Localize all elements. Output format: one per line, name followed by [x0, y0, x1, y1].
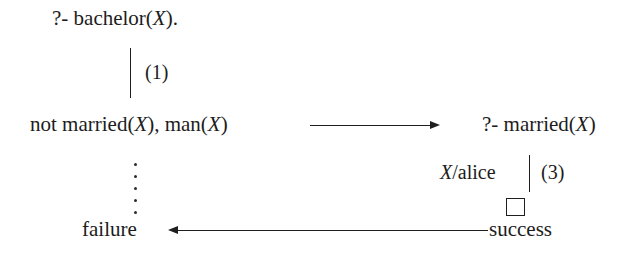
edge-bar-clause-three — [529, 155, 530, 192]
root-goal-suffix: ). — [166, 6, 178, 30]
side-goal-suffix: ) — [589, 112, 596, 136]
root-goal-prefix: ?- bachelor( — [52, 6, 153, 30]
arrow-head-to-failure — [168, 226, 178, 234]
arrow-head-to-side-goal — [430, 121, 440, 129]
side-goal-prefix: ?- married( — [482, 112, 576, 136]
failure-dot-2 — [134, 175, 137, 178]
substitution-variable: X — [440, 161, 452, 183]
empty-clause-box-icon — [506, 198, 525, 216]
substitution-suffix: /alice — [452, 161, 495, 183]
resolvent-prefix: not married( — [30, 112, 134, 136]
node-success: success — [489, 219, 552, 240]
substitution-label-alice: X/alice — [440, 162, 496, 182]
resolvent-variable-2: X — [208, 112, 221, 136]
node-root-goal: ?- bachelor(X). — [52, 8, 178, 29]
failure-dot-3 — [134, 187, 137, 190]
node-resolvent-goal: not married(X), man(X) — [30, 114, 228, 135]
node-side-goal: ?- married(X) — [482, 114, 596, 135]
arrow-line-to-failure — [178, 230, 488, 231]
resolvent-suffix: ) — [221, 112, 228, 136]
resolvent-variable-1: X — [134, 112, 147, 136]
side-goal-variable: X — [576, 112, 589, 136]
arrow-line-to-side-goal — [310, 125, 432, 126]
edge-label-clause-three: (3) — [541, 162, 564, 182]
resolvent-middle: ), man( — [147, 112, 208, 136]
failure-dot-5 — [134, 211, 137, 214]
failure-dot-4 — [134, 199, 137, 202]
root-goal-variable: X — [153, 6, 166, 30]
sld-resolution-diagram: ?- bachelor(X). (1) not married(X), man(… — [0, 0, 641, 263]
node-failure: failure — [82, 219, 137, 240]
failure-dot-1 — [134, 163, 137, 166]
edge-bar-clause-one — [130, 48, 131, 98]
edge-label-clause-one: (1) — [145, 62, 168, 82]
